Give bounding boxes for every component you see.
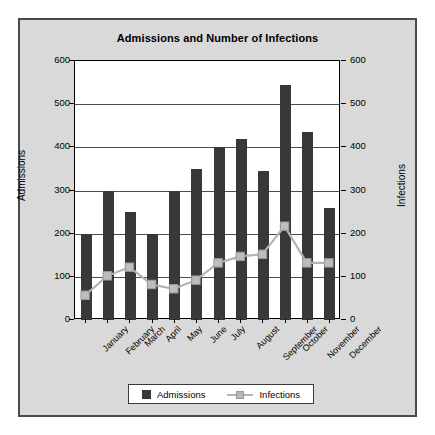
chart-title: Admissions and Number of Infections [20, 32, 415, 44]
y-tick-label: 300 [350, 184, 390, 195]
bar [103, 191, 114, 321]
x-tick-mark [107, 319, 108, 323]
bar [81, 234, 92, 320]
gridline [75, 147, 339, 148]
y-tick-mark [341, 60, 346, 61]
legend-label-infections: Infections [259, 389, 300, 400]
x-tick-label: August [254, 324, 281, 351]
x-tick-label: June [208, 324, 229, 345]
y-tick-label: 600 [350, 54, 390, 65]
y-tick-label: 300 [30, 184, 70, 195]
x-tick-label: May [185, 324, 204, 343]
x-tick-mark [174, 319, 175, 323]
bar [191, 169, 202, 320]
x-tick-mark [152, 319, 153, 323]
y-tick-mark [341, 146, 346, 147]
gridline [75, 191, 339, 192]
gridline [75, 277, 339, 278]
legend-entry-infections: Infections [227, 389, 300, 400]
x-tick-mark [307, 319, 308, 323]
y-tick-mark [69, 319, 74, 320]
x-tick-mark [329, 319, 330, 323]
y-tick-mark [341, 276, 346, 277]
bar [324, 208, 335, 320]
x-tick-label: July [229, 324, 247, 342]
y-tick-label: 0 [30, 313, 70, 324]
chart-legend: Admissions Infections [128, 384, 314, 404]
y-tick-mark [341, 233, 346, 234]
plot-area [74, 60, 340, 319]
y-tick-label: 200 [350, 227, 390, 238]
x-tick-mark [85, 319, 86, 323]
bar [214, 147, 225, 320]
gridline [75, 104, 339, 105]
gridline [75, 234, 339, 235]
x-tick-mark [129, 319, 130, 323]
bar [258, 171, 269, 320]
bar [125, 212, 136, 320]
bar [169, 191, 180, 321]
y-tick-label: 100 [350, 270, 390, 281]
y-tick-label: 200 [30, 227, 70, 238]
legend-swatch-admissions-icon [142, 390, 151, 399]
y-tick-label: 500 [350, 97, 390, 108]
chart-panel: Admissions and Number of Infections Admi… [18, 18, 417, 417]
x-tick-mark [240, 319, 241, 323]
y-tick-label: 400 [350, 140, 390, 151]
x-tick-mark [196, 319, 197, 323]
y-tick-mark [341, 103, 346, 104]
y-tick-mark [341, 190, 346, 191]
y-axis-right-title: Infections [396, 164, 407, 207]
y-tick-mark [341, 319, 346, 320]
y-tick-label: 100 [30, 270, 70, 281]
legend-entry-admissions: Admissions [142, 389, 206, 400]
legend-label-admissions: Admissions [157, 389, 206, 400]
y-tick-label: 500 [30, 97, 70, 108]
x-tick-mark [262, 319, 263, 323]
y-tick-label: 600 [30, 54, 70, 65]
bar [280, 85, 291, 320]
y-axis-left-title: Admissions [16, 150, 27, 201]
y-tick-label: 0 [350, 313, 390, 324]
bar [236, 139, 247, 320]
y-tick-label: 400 [30, 140, 70, 151]
x-tick-mark [218, 319, 219, 323]
bar [147, 234, 158, 320]
legend-swatch-infections-icon [227, 390, 253, 399]
x-tick-mark [285, 319, 286, 323]
x-tick-label: April [163, 324, 183, 344]
bar [302, 132, 313, 320]
